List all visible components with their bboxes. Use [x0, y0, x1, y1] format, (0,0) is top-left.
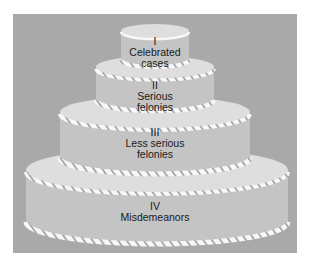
- tier-4-line1: Misdemeanors: [95, 212, 215, 223]
- tier-3-label: III Less serious felonies: [95, 127, 215, 160]
- tier-1-line2: cases: [115, 58, 195, 69]
- tier-2-label: II Serious felonies: [105, 80, 205, 113]
- tier-2-line2: felonies: [105, 102, 205, 113]
- tier-3-line2: felonies: [95, 149, 215, 160]
- tier-1-label: I Celebrated cases: [115, 36, 195, 69]
- tier-4-label: IV Misdemeanors: [95, 201, 215, 223]
